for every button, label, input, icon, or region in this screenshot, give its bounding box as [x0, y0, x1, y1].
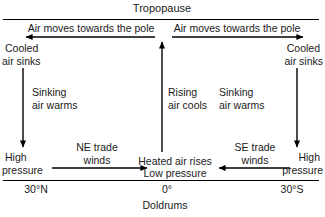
right-cooled-label-line1: Cooled	[248, 42, 320, 55]
right-sinking-label-line1: Sinking	[219, 86, 253, 99]
upper-right-flow-label: Air moves towards the pole	[174, 22, 301, 35]
surface-line	[3, 180, 319, 181]
heated-air-rises-label: Heated air rises	[138, 155, 212, 168]
right-sinking-label-line2: air warms	[219, 99, 265, 112]
latitude-label-30n: 30°N	[24, 183, 47, 196]
se-trade-winds-label-line1: SE trade	[235, 141, 276, 154]
left-high-pressure-label-line1: High	[5, 151, 27, 164]
se-trade-winds-label-line2: winds	[242, 154, 269, 167]
tropopause-line	[3, 19, 319, 20]
low-pressure-label: Low pressure	[143, 167, 206, 180]
ne-trade-winds-label-line2: winds	[84, 154, 111, 167]
hadley-cell-diagram: Tropopause Air moves towards the pole Ai…	[0, 0, 325, 217]
center-rising-label-line1: Rising	[168, 86, 197, 99]
right-cooled-label-line2: air sinks	[248, 55, 323, 68]
left-cooled-label-line2: air sinks	[2, 55, 41, 68]
left-sinking-label-line1: Sinking	[32, 86, 66, 99]
ne-trade-winds-label-line1: NE trade	[76, 141, 117, 154]
latitude-label-30s: 30°S	[281, 183, 304, 196]
left-cooled-label-line1: Cooled	[5, 42, 38, 55]
upper-left-flow-label: Air moves towards the pole	[28, 22, 155, 35]
latitude-label-equator: 0°	[162, 183, 172, 196]
left-high-pressure-label-line2: pressure	[2, 164, 43, 177]
center-rising-label-line2: air cools	[168, 99, 207, 112]
left-sinking-label-line2: air warms	[32, 99, 78, 112]
doldrums-label: Doldrums	[143, 199, 188, 212]
tropopause-title: Tropopause	[133, 2, 191, 15]
